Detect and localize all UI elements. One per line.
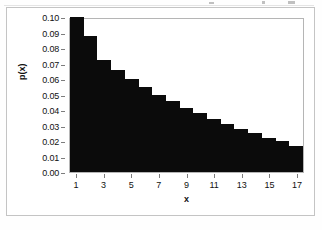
y-axis-tick-mark [61, 65, 65, 66]
bar [221, 124, 235, 172]
y-axis-tick-label: 0.10 [42, 14, 59, 23]
y-axis-tick-mark [61, 49, 65, 50]
y-axis-tick-label: 0.05 [42, 92, 59, 101]
x-axis-tick-mark [159, 174, 160, 178]
y-axis-tick-label: 0.01 [42, 154, 59, 163]
x-axis-tick-mark [131, 174, 132, 178]
y-axis-tick-label: 0.06 [42, 76, 59, 85]
x-axis-tick-label: 15 [264, 180, 274, 190]
y-axis-tick-label: 0.00 [42, 169, 59, 178]
y-axis-title: p(x) [17, 64, 27, 81]
bar-series [70, 19, 303, 172]
x-axis-tick-label: 5 [129, 180, 134, 190]
bar [139, 87, 153, 172]
x-axis-tick-mark [187, 174, 188, 178]
bar [289, 146, 303, 172]
bar [84, 36, 98, 172]
y-axis-tick-mark [61, 158, 65, 159]
y-axis-tick-label: 0.04 [42, 107, 59, 116]
x-axis: 1357911131517 [69, 175, 304, 191]
y-axis-tick-label: 0.02 [42, 138, 59, 147]
bar [70, 17, 84, 172]
bar [207, 119, 221, 172]
x-axis-tick-mark [214, 174, 215, 178]
y-axis-tick-mark [61, 173, 65, 174]
bar [97, 60, 111, 172]
bar [166, 101, 180, 172]
x-axis-tick-mark [297, 174, 298, 178]
bar [193, 113, 207, 172]
x-axis-tick-mark [104, 174, 105, 178]
y-axis-tick-mark [61, 80, 65, 81]
chart-area: 0.100.090.080.070.060.050.040.030.020.01… [6, 7, 315, 216]
y-axis-tick-label: 0.08 [42, 45, 59, 54]
y-axis-tick-label: 0.03 [42, 123, 59, 132]
bar [234, 129, 248, 172]
y-axis-tick-mark [61, 18, 65, 19]
x-axis-tick-label: 17 [292, 180, 302, 190]
y-axis-tick-label: 0.07 [42, 61, 59, 70]
bar [262, 138, 276, 172]
bar [111, 70, 125, 172]
x-axis-tick-label: 1 [73, 180, 78, 190]
x-axis-tick-label: 7 [156, 180, 161, 190]
x-axis-tick-label: 3 [101, 180, 106, 190]
scan-artifact-speck [262, 1, 265, 4]
bar [125, 79, 139, 172]
x-axis-tick-mark [269, 174, 270, 178]
x-axis-tick-mark [242, 174, 243, 178]
scan-artifact-line [4, 5, 314, 6]
x-axis-tick-mark [76, 174, 77, 178]
bar [276, 141, 290, 172]
x-axis-tick-label: 11 [209, 180, 218, 190]
y-axis-tick-mark [61, 111, 65, 112]
bar [248, 133, 262, 172]
y-axis: 0.100.090.080.070.060.050.040.030.020.01… [7, 12, 67, 179]
scan-artifact-speck [288, 1, 295, 4]
bar [152, 95, 166, 173]
x-axis-tick-label: 13 [237, 180, 247, 190]
y-axis-tick-label: 0.09 [42, 30, 59, 39]
y-axis-tick-mark [61, 142, 65, 143]
scan-artifact-speck [209, 2, 214, 4]
plot-area [69, 18, 304, 173]
y-axis-tick-mark [61, 96, 65, 97]
x-axis-tick-label: 9 [184, 180, 189, 190]
y-axis-tick-mark [61, 127, 65, 128]
y-axis-tick-mark [61, 34, 65, 35]
bar [180, 108, 194, 172]
x-axis-title: x [69, 194, 304, 204]
